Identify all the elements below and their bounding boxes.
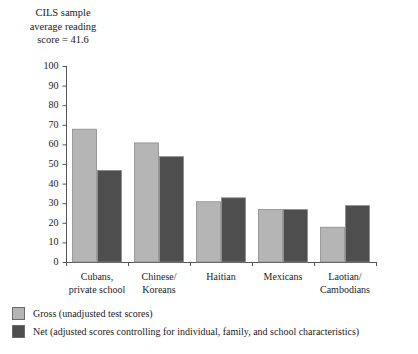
chart-legend: Gross (unadjusted test scores) Net (adju… [12, 304, 412, 340]
plot-svg [0, 0, 418, 300]
y-axis-tick-label: 20 [33, 218, 59, 228]
bar [321, 227, 345, 262]
x-axis-category-label-line: Cambodians [297, 284, 393, 297]
bar [73, 129, 97, 262]
bar [346, 206, 370, 262]
bar [259, 210, 283, 262]
y-axis-tick-label: 90 [33, 81, 59, 91]
legend-swatch-net-icon [12, 325, 25, 338]
y-axis-tick-label: 50 [33, 159, 59, 169]
y-axis-tick-label: 100 [33, 61, 59, 71]
y-axis-tick-label: 70 [33, 120, 59, 130]
y-axis-tick-label: 60 [33, 139, 59, 149]
y-axis-tick-label: 40 [33, 179, 59, 189]
y-axis-tick-label: 10 [33, 237, 59, 247]
bar [135, 143, 159, 262]
y-axis-tick-label: 30 [33, 198, 59, 208]
x-axis-category-label-line: Koreans [111, 284, 207, 297]
bar [160, 157, 184, 262]
legend-item-net: Net (adjusted scores controlling for ind… [12, 322, 412, 340]
bar [98, 170, 122, 262]
x-axis-category-label: Laotian/Cambodians [297, 271, 393, 296]
plot-area: 0102030405060708090100 Cubans,private sc… [0, 0, 418, 300]
x-axis-category-label-line: Laotian/ [297, 271, 393, 284]
bar [284, 210, 308, 262]
legend-swatch-gross-icon [12, 307, 25, 320]
legend-item-gross: Gross (unadjusted test scores) [12, 304, 412, 322]
legend-label-gross: Gross (unadjusted test scores) [33, 308, 153, 319]
bar-chart: CILS sample average reading score = 41.6… [0, 0, 418, 354]
bar [222, 198, 246, 262]
bars-group [73, 129, 370, 262]
y-axis-ticks [63, 67, 67, 263]
y-axis-tick-label: 80 [33, 100, 59, 110]
bar [197, 202, 221, 262]
y-axis-tick-label: 0 [33, 257, 59, 267]
legend-label-net: Net (adjusted scores controlling for ind… [33, 326, 359, 337]
